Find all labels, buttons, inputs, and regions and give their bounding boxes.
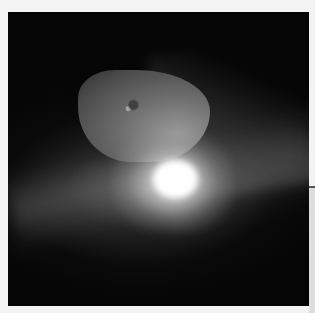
ejecta-ray-left [8, 130, 205, 254]
divider-line [309, 186, 315, 188]
impact-flash-core [153, 160, 198, 198]
comet-impact-photo [8, 12, 309, 306]
ejecta-haze [8, 72, 309, 306]
page-margin-right [309, 186, 315, 313]
ejecta-ray-upper-right [146, 28, 309, 205]
ejecta-ray-right [148, 109, 309, 244]
comet-nucleus [78, 70, 210, 162]
impact-flash-glow [113, 132, 233, 232]
